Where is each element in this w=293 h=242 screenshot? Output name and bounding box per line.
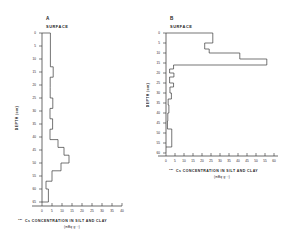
- svg-text:55: 55: [263, 159, 267, 163]
- svg-text:30: 30: [32, 109, 36, 113]
- panel-a: A SURFACE: [0, 0, 146, 242]
- svg-text:15: 15: [191, 159, 195, 163]
- svg-text:45: 45: [32, 148, 36, 152]
- svg-text:15: 15: [156, 61, 160, 65]
- svg-text:5: 5: [51, 209, 53, 213]
- panel-b-depth-ticklabels: 0 5 10 15 20 25 30 35 40 45 50 55 60: [156, 31, 160, 155]
- svg-text:25: 25: [209, 159, 213, 163]
- svg-text:50: 50: [32, 161, 36, 165]
- svg-text:60: 60: [156, 151, 160, 155]
- svg-text:10: 10: [182, 159, 186, 163]
- svg-text:0: 0: [34, 31, 36, 35]
- svg-text:35: 35: [32, 122, 36, 126]
- svg-text:60: 60: [32, 187, 36, 191]
- panel-b-xaxis-caption-main: Cs CONCENTRATION IN SILT AND CLAY: [176, 169, 258, 173]
- panel-b-letter: B: [170, 16, 174, 21]
- svg-text:10: 10: [156, 51, 160, 55]
- panel-b-xaxis-units: (mBq·g⁻¹): [214, 175, 230, 179]
- panel-b-surface-label: SURFACE: [170, 24, 192, 29]
- svg-text:40: 40: [32, 135, 36, 139]
- svg-text:30: 30: [218, 159, 222, 163]
- svg-text:10: 10: [60, 209, 64, 213]
- panel-a-isotope-superscript: 137: [18, 218, 23, 221]
- svg-text:25: 25: [156, 81, 160, 85]
- panel-b-depth-ticks: [163, 33, 166, 153]
- panel-b-plot: B SURFACE 0 5 1: [146, 0, 293, 242]
- svg-text:65: 65: [32, 200, 36, 204]
- svg-text:25: 25: [90, 209, 94, 213]
- svg-text:5: 5: [34, 44, 36, 48]
- panel-b-depth-caption: DEPTH (cm): [146, 83, 150, 108]
- panel-a-surface-label: SURFACE: [46, 24, 68, 29]
- svg-text:40: 40: [156, 111, 160, 115]
- svg-text:20: 20: [200, 159, 204, 163]
- panel-a-xaxis-caption: 137 Cs CONCENTRATION IN SILT AND CLAY (m…: [18, 218, 107, 230]
- panel-a-letter: A: [46, 16, 50, 21]
- panel-a-plot: A SURFACE: [0, 0, 146, 242]
- svg-text:50: 50: [254, 159, 258, 163]
- panel-b-isotope-superscript: 137: [169, 168, 174, 171]
- svg-text:20: 20: [156, 71, 160, 75]
- panel-a-xaxis-units: (mBq·g⁻¹): [64, 225, 80, 229]
- panel-b: B SURFACE 0 5 1: [146, 0, 293, 242]
- panel-b-step-profile: [166, 33, 267, 147]
- svg-text:50: 50: [156, 131, 160, 135]
- panel-a-xaxis-caption-main: Cs CONCENTRATION IN SILT AND CLAY: [25, 219, 107, 223]
- svg-text:35: 35: [110, 209, 114, 213]
- svg-text:45: 45: [156, 121, 160, 125]
- svg-text:10: 10: [32, 57, 36, 61]
- panel-b-concentration-ticks: [166, 153, 274, 156]
- svg-text:25: 25: [32, 96, 36, 100]
- svg-text:20: 20: [32, 83, 36, 87]
- svg-text:0: 0: [165, 159, 167, 163]
- svg-text:60: 60: [272, 159, 276, 163]
- svg-text:45: 45: [245, 159, 249, 163]
- svg-text:35: 35: [227, 159, 231, 163]
- svg-text:15: 15: [70, 209, 74, 213]
- figure-container: A SURFACE: [0, 0, 293, 242]
- svg-text:0: 0: [41, 209, 43, 213]
- svg-text:40: 40: [120, 209, 124, 213]
- panel-a-depth-ticklabels: 0 5 10 15 20 25 30 35 40 45 50 55 60 65: [32, 31, 36, 204]
- svg-text:55: 55: [156, 141, 160, 145]
- panel-a-depth-ticks: [39, 33, 42, 202]
- panel-b-concentration-ticklabels: 0 5 10 15 20 25 30 35 40 45 50 55 60: [165, 159, 276, 163]
- svg-text:40: 40: [236, 159, 240, 163]
- panel-a-concentration-ticklabels: 0 5 10 15 20 25 30 35 40: [41, 209, 124, 213]
- svg-text:5: 5: [158, 41, 160, 45]
- svg-text:15: 15: [32, 70, 36, 74]
- svg-text:35: 35: [156, 101, 160, 105]
- svg-text:20: 20: [80, 209, 84, 213]
- svg-text:30: 30: [100, 209, 104, 213]
- panel-b-xaxis-caption: 137 Cs CONCENTRATION IN SILT AND CLAY (m…: [169, 168, 258, 180]
- svg-text:0: 0: [158, 31, 160, 35]
- svg-text:5: 5: [174, 159, 176, 163]
- svg-text:55: 55: [32, 174, 36, 178]
- panel-a-concentration-ticks: [42, 203, 122, 206]
- panel-a-depth-caption: DEPTH (cm): [15, 106, 19, 131]
- panel-a-step-profile: [42, 33, 69, 202]
- svg-text:30: 30: [156, 91, 160, 95]
